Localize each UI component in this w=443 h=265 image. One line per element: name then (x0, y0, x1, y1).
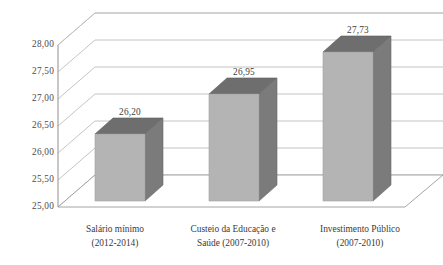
category-label-3: Investimento Público (2007-2010) (292, 222, 428, 250)
y-axis-tick-labels: 28,00 27,50 27,00 26,50 26,00 25,50 25,0… (2, 0, 54, 265)
bar-group-2[interactable] (209, 78, 277, 201)
bar-side-face-3 (373, 36, 391, 201)
bar-group-3[interactable] (323, 36, 391, 201)
y-tick-label: 27,50 (8, 66, 54, 76)
category-label-2: Custeio da Educação e Saúde (2007-2010) (162, 222, 304, 250)
y-tick-label: 26,00 (8, 147, 54, 157)
y-tick-label: 28,00 (8, 39, 54, 49)
bar-front-face-1 (95, 134, 145, 201)
bar-group-1[interactable] (95, 118, 163, 201)
y-tick-label: 25,00 (8, 201, 54, 211)
bar-front-face-2 (209, 94, 259, 201)
y-tick-label: 27,00 (8, 93, 54, 103)
bar-value-label-1: 26,20 (105, 107, 155, 117)
y-tick-label: 26,50 (8, 120, 54, 130)
bar-chart: 28,00 27,50 27,00 26,50 26,00 25,50 25,0… (0, 0, 443, 265)
bar-side-face-2 (259, 78, 277, 201)
bar-value-label-2: 26,95 (219, 67, 269, 77)
bar-value-label-3: 27,73 (333, 25, 383, 35)
bar-front-face-3 (323, 52, 373, 201)
category-label-2-line2: Saúde (2007-2010) (162, 236, 304, 250)
category-label-1-line1: Salário mínimo (86, 224, 144, 234)
category-label-3-line1: Investimento Público (320, 224, 400, 234)
category-label-1-line2: (2012-2014) (50, 236, 180, 250)
category-label-1: Salário mínimo (2012-2014) (50, 222, 180, 250)
category-label-2-line1: Custeio da Educação e (190, 224, 275, 234)
y-tick-label: 25,50 (8, 174, 54, 184)
category-label-3-line2: (2007-2010) (292, 236, 428, 250)
